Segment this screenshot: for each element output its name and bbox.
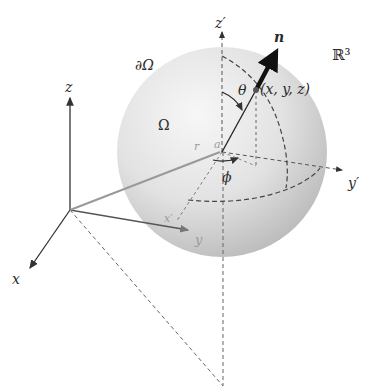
region-label: Ω <box>158 117 170 133</box>
phi-label: ϕ <box>222 169 232 185</box>
z-prime-label: z′ <box>214 15 226 31</box>
x-prime-label: x′ <box>164 212 173 225</box>
center-label: a <box>214 138 221 151</box>
z-axis-label: z <box>64 79 73 95</box>
normal-label: n <box>274 29 284 45</box>
x-axis-label: x <box>12 271 20 287</box>
radius-label: r <box>194 140 200 153</box>
boundary-label: ∂Ω <box>135 57 154 73</box>
spherical-coordinates-diagram: ℝ³ Ω ∂Ω n (x, y, z) θ ϕ a r z x y z′ y′ … <box>0 0 371 392</box>
x-axis <box>30 210 70 268</box>
theta-label: θ <box>238 82 247 98</box>
space-label: ℝ³ <box>332 46 350 64</box>
y-axis-label: y <box>194 232 203 247</box>
y-prime-label: y′ <box>347 175 360 191</box>
surface-point <box>253 87 259 93</box>
point-label: (x, y, z) <box>260 81 310 97</box>
